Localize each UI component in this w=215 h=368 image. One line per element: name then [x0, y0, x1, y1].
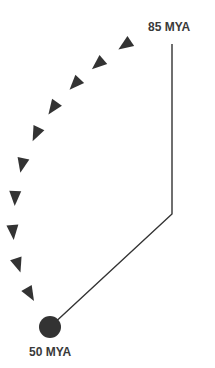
arrowhead-icon: [21, 285, 39, 304]
arrowhead-icon: [9, 191, 22, 206]
arrowhead-icon: [10, 256, 26, 274]
arrowhead-icon: [115, 36, 134, 54]
arrowhead-icon: [27, 125, 44, 144]
start-time-label: 85 MYA: [148, 20, 190, 34]
arrowhead-icon: [43, 99, 61, 118]
migration-diagram: [0, 0, 215, 368]
dispersal-arrows: [6, 36, 134, 304]
route-line: [50, 44, 172, 327]
arrowhead-icon: [65, 75, 84, 94]
end-time-label: 50 MYA: [29, 345, 71, 359]
arrowhead-icon: [6, 225, 19, 241]
arrowhead-icon: [88, 55, 107, 74]
location-dot: [39, 316, 61, 338]
arrowhead-icon: [14, 157, 29, 174]
